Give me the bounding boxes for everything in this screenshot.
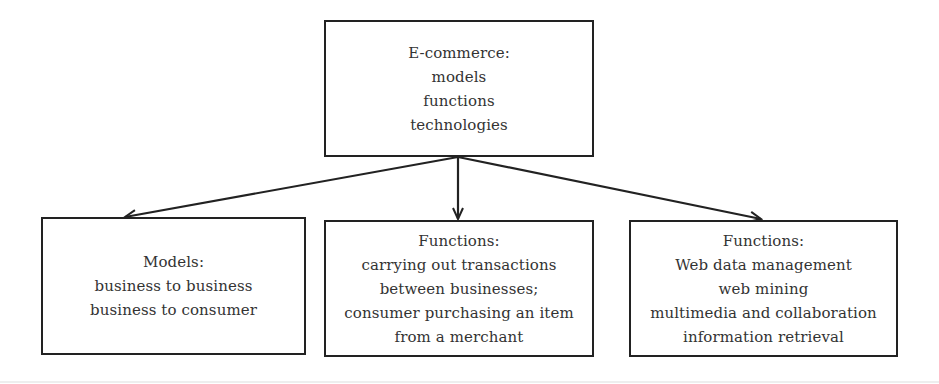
node-functions-transactions: Functions: carrying out transactions bet… — [324, 220, 594, 357]
bottom-divider — [0, 381, 939, 383]
node-title: Functions: — [418, 229, 499, 253]
node-line: business to consumer — [90, 298, 257, 322]
node-line: carrying out transactions — [361, 253, 556, 277]
node-title: Functions: — [723, 229, 804, 253]
root-title: E-commerce: — [408, 41, 510, 65]
node-functions-web: Functions: Web data management web minin… — [629, 220, 898, 357]
node-line: web mining — [719, 277, 809, 301]
root-line: functions — [423, 89, 494, 113]
node-title: Models: — [143, 250, 204, 274]
node-line: Web data management — [675, 253, 852, 277]
node-line: multimedia and collaboration — [650, 301, 877, 325]
root-line: technologies — [410, 113, 508, 137]
root-line: models — [432, 65, 487, 89]
arrow-to-functions-web — [458, 157, 761, 219]
root-node-ecommerce: E-commerce: models functions technologie… — [324, 20, 594, 157]
node-line: between businesses; — [380, 277, 539, 301]
node-line: information retrieval — [683, 325, 844, 349]
node-line: business to business — [95, 274, 253, 298]
node-models: Models: business to business business to… — [41, 217, 306, 355]
node-line: from a merchant — [395, 325, 524, 349]
node-line: consumer purchasing an item — [344, 301, 573, 325]
arrow-to-models — [125, 157, 458, 217]
